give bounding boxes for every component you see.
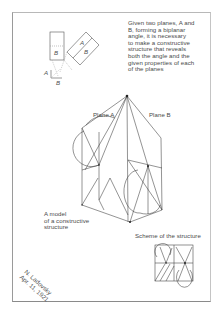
structure-scheme (155, 243, 193, 287)
model-caption-line: structure (44, 224, 89, 231)
label-b-rotated: B (84, 48, 88, 55)
plane-b-label: Plane B (149, 112, 171, 119)
intro-text: Given two planes, A and B, forming a bip… (128, 20, 195, 73)
model-caption: A model of a constructive structure (44, 211, 89, 231)
label-a-angle: A (43, 69, 48, 76)
scheme-caption: Scheme of the structure (135, 233, 201, 240)
intro-line: of the planes (128, 66, 195, 73)
label-b-rect: B (54, 49, 58, 56)
label-b-angle: B (56, 79, 60, 86)
label-a-rotated: A (79, 39, 84, 46)
plane-a-label: Plane A (93, 112, 114, 119)
